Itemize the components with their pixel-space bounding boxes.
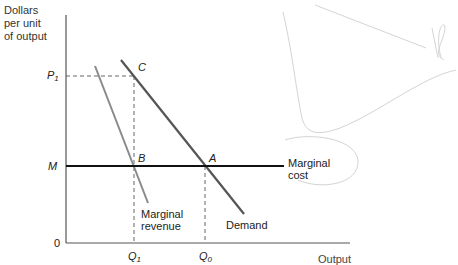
- point-a-label: A: [209, 152, 216, 164]
- demand-curve: [121, 60, 244, 214]
- label-line: cost: [288, 169, 330, 181]
- point-c-label: C: [138, 61, 146, 73]
- x-axis-label: Output: [318, 253, 351, 265]
- label-line: revenue: [141, 220, 183, 232]
- tick-m: M: [48, 160, 57, 172]
- y-axis-label-line: Dollars: [4, 4, 64, 17]
- demand-label: Demand: [226, 219, 268, 231]
- tick-q1: Q1: [128, 250, 141, 265]
- y-axis-label-line: of output: [4, 30, 64, 43]
- tick-main: Q: [199, 250, 208, 262]
- marginal-revenue-curve: [95, 66, 148, 203]
- tick-sub: 1: [137, 255, 141, 264]
- tick-main: Q: [128, 250, 137, 262]
- tick-p1: P1: [47, 69, 59, 85]
- y-axis-label: Dollars per unit of output: [4, 4, 64, 43]
- label-line: Marginal: [141, 208, 183, 220]
- marginal-revenue-label: Marginal revenue: [141, 208, 183, 232]
- marginal-cost-label: Marginal cost: [288, 157, 330, 181]
- tick-sub: 1: [54, 74, 58, 83]
- tick-zero: 0: [54, 237, 60, 249]
- label-line: Marginal: [288, 157, 330, 169]
- y-axis-label-line: per unit: [4, 17, 64, 30]
- tick-sub: 0: [208, 255, 212, 264]
- point-b-label: B: [138, 152, 145, 164]
- tick-q0: Q0: [199, 250, 212, 265]
